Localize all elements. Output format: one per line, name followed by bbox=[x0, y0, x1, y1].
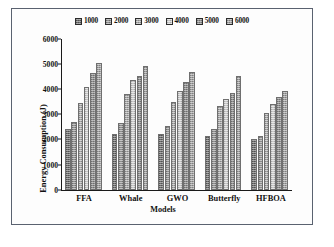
bar[interactable] bbox=[118, 123, 124, 190]
legend-label: 1000 bbox=[84, 17, 98, 25]
legend-item[interactable]: 6000 bbox=[226, 17, 249, 25]
legend-swatch-icon bbox=[196, 18, 203, 25]
legend-item[interactable]: 5000 bbox=[196, 17, 219, 25]
y-axis-tick-mark bbox=[58, 114, 61, 115]
bar[interactable] bbox=[112, 134, 118, 190]
bar[interactable] bbox=[230, 93, 236, 189]
bar[interactable] bbox=[264, 113, 270, 190]
chart-legend: 100020003000400050006000 bbox=[12, 17, 312, 25]
bar[interactable] bbox=[90, 73, 96, 190]
bar[interactable] bbox=[282, 91, 288, 190]
legend-swatch-icon bbox=[226, 18, 233, 25]
y-axis-tick-mark bbox=[58, 189, 61, 190]
legend-item[interactable]: 2000 bbox=[105, 17, 128, 25]
bar[interactable] bbox=[236, 76, 242, 190]
y-axis-tick-mark bbox=[58, 139, 61, 140]
legend-label: 3000 bbox=[144, 17, 158, 25]
y-axis-tick-mark bbox=[58, 64, 61, 65]
bar[interactable] bbox=[183, 82, 189, 189]
bar[interactable] bbox=[84, 87, 90, 190]
y-axis-tick-label: 4000 bbox=[43, 85, 58, 94]
bar[interactable] bbox=[65, 129, 71, 189]
bar[interactable] bbox=[217, 106, 223, 189]
bar-group bbox=[65, 39, 102, 190]
y-axis-tick-label: 5000 bbox=[43, 60, 58, 69]
y-axis-tick-mark bbox=[58, 39, 61, 40]
legend-item[interactable]: 1000 bbox=[75, 17, 98, 25]
y-axis-tick-mark bbox=[58, 89, 61, 90]
bar[interactable] bbox=[124, 94, 130, 190]
legend-label: 2000 bbox=[114, 17, 128, 25]
bar-group bbox=[158, 39, 195, 190]
bar[interactable] bbox=[258, 136, 264, 190]
y-axis-tick-label: 3000 bbox=[43, 110, 58, 119]
chart-figure: 100020003000400050006000 Energy Consumpt… bbox=[11, 8, 313, 225]
bar[interactable] bbox=[189, 72, 195, 190]
bar[interactable] bbox=[143, 66, 149, 190]
legend-item[interactable]: 3000 bbox=[135, 17, 158, 25]
legend-swatch-icon bbox=[105, 18, 112, 25]
bar[interactable] bbox=[71, 122, 77, 190]
y-axis-tick-mark bbox=[58, 164, 61, 165]
bar[interactable] bbox=[137, 76, 143, 190]
bar[interactable] bbox=[205, 136, 211, 189]
x-axis-category-labels: FFAWhaleGWOButterflyHFBOA bbox=[62, 194, 293, 203]
bar[interactable] bbox=[158, 134, 164, 190]
legend-swatch-icon bbox=[135, 18, 142, 25]
x-axis-category-label: GWO bbox=[159, 194, 197, 203]
x-axis-category-label: Butterfly bbox=[205, 194, 243, 203]
x-axis-category-label: FFA bbox=[65, 194, 103, 203]
legend-swatch-icon bbox=[75, 18, 82, 25]
bar-group bbox=[112, 39, 149, 190]
x-axis-title: Models bbox=[12, 205, 314, 214]
x-axis-category-label: Whale bbox=[112, 194, 150, 203]
bar[interactable] bbox=[270, 104, 276, 189]
legend-item[interactable]: 4000 bbox=[166, 17, 189, 25]
bar[interactable] bbox=[251, 139, 257, 189]
bar[interactable] bbox=[223, 99, 229, 190]
bar[interactable] bbox=[96, 63, 102, 190]
bar[interactable] bbox=[276, 97, 282, 190]
y-axis-title: Energy Consumption (J) bbox=[39, 74, 48, 224]
bar[interactable] bbox=[211, 129, 217, 190]
bar[interactable] bbox=[78, 103, 84, 190]
bar-group bbox=[205, 39, 242, 190]
y-axis-tick-label: 6000 bbox=[43, 35, 58, 44]
x-axis-category-label: HFBOA bbox=[252, 194, 290, 203]
bar-groups bbox=[62, 39, 292, 190]
y-axis-tick-label: 2000 bbox=[43, 135, 58, 144]
y-axis-tick-label: 1000 bbox=[43, 160, 58, 169]
legend-label: 4000 bbox=[175, 17, 189, 25]
bar[interactable] bbox=[130, 80, 136, 189]
x-axis-line bbox=[61, 190, 292, 191]
legend-label: 5000 bbox=[205, 17, 219, 25]
bar[interactable] bbox=[165, 126, 171, 189]
bar[interactable] bbox=[177, 91, 183, 190]
y-axis-title-wrapper: Energy Consumption (J) bbox=[20, 39, 34, 191]
bar-group bbox=[251, 39, 288, 190]
plot-area: 0100020003000400050006000 bbox=[61, 39, 292, 191]
legend-swatch-icon bbox=[166, 18, 173, 25]
bar[interactable] bbox=[171, 102, 177, 189]
legend-label: 6000 bbox=[235, 17, 249, 25]
